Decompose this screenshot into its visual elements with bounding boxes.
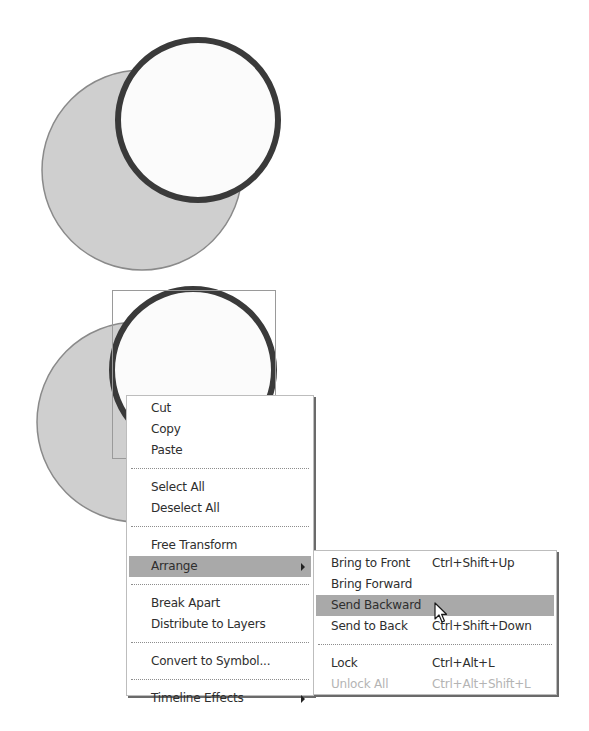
- menu-item-distribute-to-layers[interactable]: Distribute to Layers: [129, 614, 311, 635]
- menu-item-label: Send to Back: [331, 619, 408, 633]
- menu-item-shortcut: Ctrl+Alt+Shift+L: [432, 674, 531, 695]
- menu-item-bring-to-front[interactable]: Bring to Front Ctrl+Shift+Up: [316, 553, 554, 574]
- menu-item-label: Distribute to Layers: [151, 617, 266, 631]
- menu-item-label: Select All: [151, 480, 205, 494]
- menu-item-label: Convert to Symbol...: [151, 654, 270, 668]
- top-figure: [42, 40, 278, 270]
- menu-separator: [131, 584, 309, 586]
- menu-item-break-apart[interactable]: Break Apart: [129, 593, 311, 614]
- menu-item-cut[interactable]: Cut: [129, 398, 311, 419]
- menu-item-bring-forward[interactable]: Bring Forward: [316, 574, 554, 595]
- menu-item-label: Free Transform: [151, 538, 237, 552]
- menu-item-label: Send Backward: [331, 598, 421, 612]
- menu-separator: [131, 468, 309, 470]
- white-circle-top[interactable]: [118, 40, 278, 200]
- menu-item-unlock-all: Unlock All Ctrl+Alt+Shift+L: [316, 674, 554, 695]
- menu-item-label: Bring to Front: [331, 556, 410, 570]
- menu-item-label: Timeline Effects: [151, 691, 244, 705]
- submenu-arrow-icon: [301, 695, 305, 703]
- menu-item-convert-to-symbol[interactable]: Convert to Symbol...: [129, 651, 311, 672]
- arrow-cursor-icon: [434, 602, 448, 624]
- menu-item-select-all[interactable]: Select All: [129, 477, 311, 498]
- menu-item-shortcut: Ctrl+Alt+L: [432, 653, 494, 674]
- menu-separator: [318, 644, 552, 646]
- menu-item-label: Copy: [151, 422, 181, 436]
- menu-item-label: Arrange: [151, 559, 197, 573]
- menu-separator: [131, 526, 309, 528]
- menu-item-label: Bring Forward: [331, 577, 412, 591]
- menu-item-label: Paste: [151, 443, 182, 457]
- menu-item-arrange[interactable]: Arrange: [129, 556, 311, 577]
- context-menu: Cut Copy Paste Select All Deselect All F…: [126, 395, 314, 696]
- menu-item-free-transform[interactable]: Free Transform: [129, 535, 311, 556]
- stage: Cut Copy Paste Select All Deselect All F…: [0, 0, 589, 731]
- menu-item-deselect-all[interactable]: Deselect All: [129, 498, 311, 519]
- menu-item-copy[interactable]: Copy: [129, 419, 311, 440]
- menu-item-paste[interactable]: Paste: [129, 440, 311, 461]
- submenu-arrow-icon: [301, 563, 305, 571]
- menu-item-lock[interactable]: Lock Ctrl+Alt+L: [316, 653, 554, 674]
- menu-item-label: Cut: [151, 401, 171, 415]
- menu-item-label: Lock: [331, 656, 358, 670]
- menu-item-label: Deselect All: [151, 501, 220, 515]
- menu-item-timeline-effects[interactable]: Timeline Effects: [129, 688, 311, 709]
- menu-separator: [131, 642, 309, 644]
- menu-separator: [131, 679, 309, 681]
- menu-item-label: Unlock All: [331, 677, 388, 691]
- menu-item-label: Break Apart: [151, 596, 220, 610]
- menu-item-shortcut: Ctrl+Shift+Up: [432, 553, 515, 574]
